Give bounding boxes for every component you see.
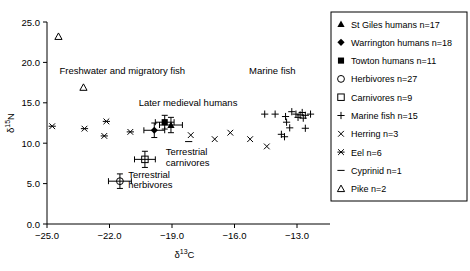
legend-item[interactable]: Towton humans n=11	[332, 54, 466, 71]
legend-item-label: Towton humans n=11	[351, 56, 436, 66]
x-tick-label: −22.0	[97, 230, 121, 241]
y-tick-label: 20.0	[22, 57, 41, 68]
legend-item[interactable]: Warrington humans n=18	[332, 35, 466, 52]
scatter-plot-figure: 0.05.010.015.020.025.0−25.0−22.0−19.0−16…	[0, 0, 470, 271]
y-tick-label: 25.0	[22, 17, 41, 28]
chart-annotation: herbivores	[128, 179, 173, 190]
chart-canvas: 0.05.010.015.020.025.0−25.0−22.0−19.0−16…	[0, 0, 470, 271]
legend-item[interactable]: Eel n=6	[332, 145, 466, 162]
y-tick-label: 5.0	[27, 178, 40, 189]
marker-filled-square	[162, 119, 168, 125]
marker-filled-square	[338, 58, 344, 64]
chart-annotation: Marine fish	[249, 65, 295, 76]
chart-legend: St Giles humans n=17Warrington humans n=…	[331, 12, 467, 201]
legend-item[interactable]: Marine fish n=15	[332, 109, 466, 126]
chart-annotation: Terrestrial	[166, 146, 208, 157]
y-tick-label: 15.0	[22, 97, 41, 108]
legend-item-label: Eel n=6	[351, 148, 382, 158]
legend-item-label: St Giles humans n=17	[351, 20, 440, 30]
legend-item-label: Herbivores n=27	[351, 74, 417, 84]
chart-annotation: carnivores	[166, 157, 210, 168]
legend-item-label: Cyprinid n=1	[351, 166, 402, 176]
legend-item[interactable]: Cyprinid n=1	[332, 163, 466, 180]
legend-item-label: Herring n=3	[351, 129, 398, 139]
legend-item-label: Warrington humans n=18	[351, 38, 452, 48]
legend-item[interactable]: Carnivores n=9	[332, 90, 466, 107]
legend-item-label: Pike n=2	[351, 184, 386, 194]
legend-item[interactable]: Herring n=3	[332, 127, 466, 144]
x-tick-label: −16.0	[222, 230, 246, 241]
legend-item[interactable]: St Giles humans n=17	[332, 17, 466, 34]
chart-annotation: Freshwater and migratory fish	[60, 65, 186, 76]
x-tick-label: −13.0	[285, 230, 309, 241]
legend-item-label: Carnivores n=9	[351, 93, 412, 103]
legend-item-label: Marine fish n=15	[351, 111, 418, 121]
chart-annotation: Later medieval humans	[139, 97, 238, 108]
chart-annotation: Terrestrial	[128, 169, 170, 180]
legend-item[interactable]: Herbivores n=27	[332, 72, 466, 89]
x-tick-label: −19.0	[160, 230, 184, 241]
y-tick-label: 10.0	[22, 138, 41, 149]
legend-item[interactable]: Pike n=2	[332, 182, 466, 199]
x-tick-label: −25.0	[35, 230, 59, 241]
y-tick-label: 0.0	[27, 219, 40, 230]
